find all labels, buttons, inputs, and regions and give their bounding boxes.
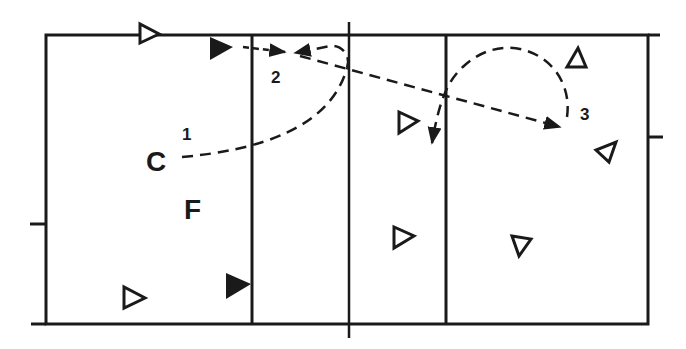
path-2 (243, 47, 285, 52)
player-marker (399, 112, 418, 133)
player-marker (596, 142, 616, 162)
step-1-label: 1 (182, 126, 191, 143)
player-marker-filled (226, 273, 251, 299)
player-marker (512, 236, 531, 256)
player-marker (140, 24, 159, 43)
player-c-label: C (146, 148, 166, 176)
path-1 (182, 68, 347, 157)
step-2-label: 2 (271, 69, 280, 86)
court-boundary (46, 35, 648, 324)
court-diagram: C F 1 2 3 (0, 0, 686, 349)
player-marker (124, 287, 145, 308)
step-3-label: 3 (580, 106, 589, 123)
path-3 (300, 56, 560, 127)
player-marker-filled (210, 37, 233, 60)
court-svg (0, 0, 686, 349)
filled-triangles (210, 37, 251, 299)
player-marker (567, 48, 586, 67)
open-triangles (124, 24, 616, 308)
movement-paths (182, 46, 568, 157)
player-marker (394, 227, 414, 248)
path-loop (432, 48, 568, 143)
player-f-label: F (184, 196, 201, 224)
